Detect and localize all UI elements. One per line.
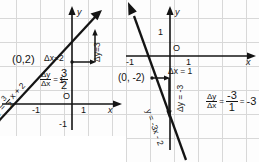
x-axis-left bbox=[2, 101, 122, 108]
origin-label-right: O bbox=[173, 44, 180, 53]
delta-y-label-left: Δy=3 bbox=[93, 42, 102, 62]
y-intercept-point-right bbox=[150, 76, 153, 79]
y-tick-neg1-left: -1 bbox=[59, 120, 67, 129]
slope-ratio-right-equals: = bbox=[219, 98, 224, 106]
x-tick-1-right: 1 bbox=[186, 58, 191, 67]
slope-value-right-den: 1 bbox=[226, 102, 238, 113]
slope-ratio-right: Δy Δx = -3 1 = -3 bbox=[206, 90, 256, 113]
delta-x-label-left: Δx=2 bbox=[44, 54, 64, 63]
delta-x-label-right: Δx = 1 bbox=[168, 67, 192, 76]
line-graph-left bbox=[0, 10, 102, 124]
slope-ratio-right-den: Δx bbox=[206, 102, 217, 110]
y-tick-1-right: 1 bbox=[158, 28, 163, 37]
slope-ratio-left-equals: = bbox=[53, 76, 58, 84]
y-intercept-label-left: (0,2) bbox=[12, 54, 35, 65]
x-tick-1-left: 1 bbox=[81, 106, 86, 115]
y-intercept-label-right: (0, -2) bbox=[118, 73, 145, 83]
x-axis-label-right: x bbox=[246, 58, 251, 67]
origin-label-left: O bbox=[63, 92, 70, 101]
y-axis-left bbox=[68, 6, 75, 130]
delta-y-label-right: Δy = -3 bbox=[176, 85, 185, 112]
figure-canvas: (0,2) Δx=2 Δy=3 Δy Δx = 3 2 y = 3 2 x + … bbox=[0, 0, 259, 167]
y-axis-label-left: y bbox=[77, 8, 82, 17]
y-axis-label-right: y bbox=[175, 8, 180, 17]
rise-run-bracket-right bbox=[152, 76, 172, 118]
slope-ratio-left-den: Δx bbox=[40, 80, 51, 88]
graph-right bbox=[126, 0, 259, 167]
x-tick-neg1-left: -1 bbox=[32, 106, 40, 115]
slope-ratio-right-equals2: = bbox=[240, 98, 245, 106]
y-intercept-point-left bbox=[70, 60, 73, 63]
x-tick-neg1-right: -1 bbox=[126, 58, 134, 67]
x-axis-label-left: x bbox=[108, 106, 113, 115]
slope-result-right: -3 bbox=[246, 96, 256, 107]
y-tick-1-left: 1 bbox=[59, 76, 64, 85]
